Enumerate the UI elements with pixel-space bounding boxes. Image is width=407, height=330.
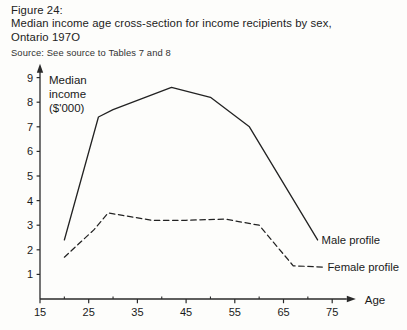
x-axis-title-label: Age [365,294,385,306]
y-axis-title-line2: income [49,88,86,100]
figure-caption: Figure 24: Median income age cross-secti… [11,4,401,44]
x-axis-title: Age [365,294,385,306]
y-axis: 123456789 [27,64,43,299]
x-tick-label: 45 [180,306,192,318]
y-axis-arrow [37,64,43,73]
x-tick-label: 65 [277,306,289,318]
x-axis: 15253545556575 [34,296,356,318]
figure-title-line1: Median income age cross-section for inco… [11,17,401,30]
series-line-male-profile [64,87,317,240]
chart-legend: Male profileFemale profile [322,234,399,273]
y-tick-label: 5 [27,170,33,182]
y-tick-label: 8 [27,96,33,108]
figure-title-line2: Ontario 197O [11,31,401,44]
y-tick-label: 6 [27,145,33,157]
y-tick-label: 7 [27,121,33,133]
chart-series [64,87,322,267]
x-tick-label: 75 [326,306,338,318]
y-tick-label: 3 [27,219,33,231]
y-axis-title: Medianincome($'000) [49,74,87,114]
y-tick-label: 1 [27,268,33,280]
series-line-female-profile [64,213,322,267]
x-tick-label: 35 [131,306,143,318]
y-tick-label: 2 [27,244,33,256]
y-tick-label: 4 [27,195,33,207]
chart-plot-area: 123456789 15253545556575 Male profileFem… [0,62,407,330]
legend-label-female: Female profile [327,261,399,273]
figure-source-note: Source: See source to Tables 7 and 8 [11,47,171,58]
y-axis-title-line3: ($'000) [49,102,85,114]
x-axis-arrow [347,296,356,302]
y-tick-label: 9 [27,72,33,84]
figure-number: Figure 24: [11,4,401,17]
x-tick-label: 15 [34,306,46,318]
y-axis-title-line1: Median [49,74,87,86]
line-chart-svg: 123456789 15253545556575 Male profileFem… [0,62,407,330]
legend-label-male: Male profile [322,234,380,246]
x-tick-label: 55 [229,306,241,318]
x-tick-label: 25 [83,306,95,318]
